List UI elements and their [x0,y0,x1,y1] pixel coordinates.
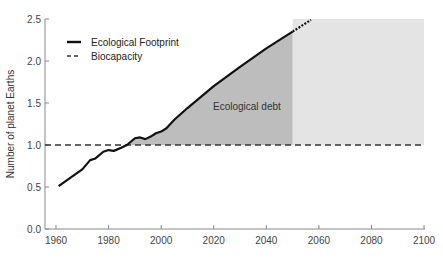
x-tick-label: 2060 [308,235,331,246]
legend: Ecological FootprintBiocapacity [67,37,179,62]
y-tick-label: 1.5 [27,98,41,109]
future-region-shading [293,19,424,145]
y-tick-label: 0.0 [27,224,41,235]
legend-label-footprint: Ecological Footprint [91,37,179,48]
y-axis-title: Number of planet Earths [5,70,16,178]
x-tick-label: 1960 [45,235,68,246]
chart-canvas: 196019802000202020402060208021000.00.51.… [0,0,443,259]
y-tick-label: 0.5 [27,182,41,193]
y-tick-label: 2.0 [27,56,41,67]
annotations: Ecological debt [213,101,281,112]
y-tick-label: 2.5 [27,14,41,25]
x-tick-label: 2100 [413,235,436,246]
x-tick-label: 2020 [203,235,226,246]
y-tick-label: 1.0 [27,140,41,151]
future-shaded-box [293,19,424,145]
x-tick-label: 2080 [360,235,383,246]
x-tick-label: 2000 [150,235,173,246]
x-tick-label: 1980 [97,235,120,246]
x-tick-label: 2040 [255,235,278,246]
ecological-debt-label: Ecological debt [213,101,281,112]
legend-label-biocapacity: Biocapacity [91,51,142,62]
